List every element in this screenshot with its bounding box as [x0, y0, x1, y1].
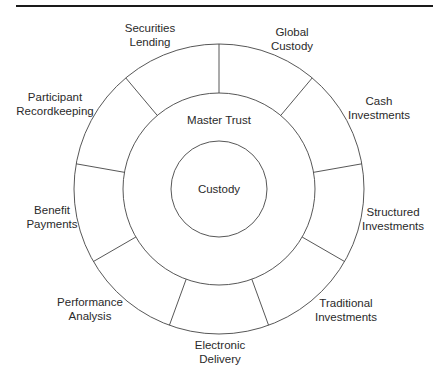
segment-label-line: Cash [366, 95, 393, 107]
segment-label-line: Custody [271, 40, 313, 52]
segment-label-line: Benefit [34, 204, 71, 216]
segment-label-line: Securities [125, 22, 176, 34]
segment-label-line: Lending [130, 36, 171, 48]
segment-traditional-investments: Traditional Investments [315, 297, 377, 323]
segment-label-line: Global [275, 26, 308, 38]
segment-label-line: Payments [26, 218, 77, 230]
segment-electronic-delivery: Electronic Delivery [195, 339, 246, 365]
segment-label-line: Traditional [319, 297, 372, 309]
segment-divider [93, 237, 135, 262]
segment-divider [76, 164, 124, 173]
segment-cash-investments: Cash Investments [348, 95, 410, 121]
center-label: Custody [198, 183, 240, 195]
segment-label-line: Investments [348, 109, 410, 121]
segment-label-line: Analysis [69, 310, 112, 322]
segment-label-line: Electronic [195, 339, 246, 351]
segment-divider [126, 78, 157, 116]
segment-performance-analysis: Performance Analysis [57, 296, 123, 322]
middle-ring-label: Master Trust [187, 114, 252, 126]
segment-divider [281, 78, 312, 116]
segment-label-line: Investments [362, 220, 424, 232]
services-diagram: Custody Master Trust Securities Lending … [0, 0, 442, 382]
segment-securities-lending: Securities Lending [125, 22, 176, 48]
segment-label-line: Participant [28, 91, 83, 103]
segment-label-line: Investments [315, 311, 377, 323]
segment-label-line: Structured [366, 206, 419, 218]
segment-global-custody: Global Custody [271, 26, 313, 52]
segment-divider [169, 279, 186, 325]
segment-divider [302, 237, 344, 262]
segment-label-line: Performance [57, 296, 123, 308]
segment-participant-recordkeeping: Participant Recordkeeping [16, 91, 93, 117]
segment-benefit-payments: Benefit Payments [26, 204, 77, 230]
segment-structured-investments: Structured Investments [362, 206, 424, 232]
segment-divider [252, 279, 269, 325]
segment-divider [314, 164, 362, 173]
segment-label-line: Delivery [199, 353, 241, 365]
segment-label-line: Recordkeeping [16, 105, 93, 117]
